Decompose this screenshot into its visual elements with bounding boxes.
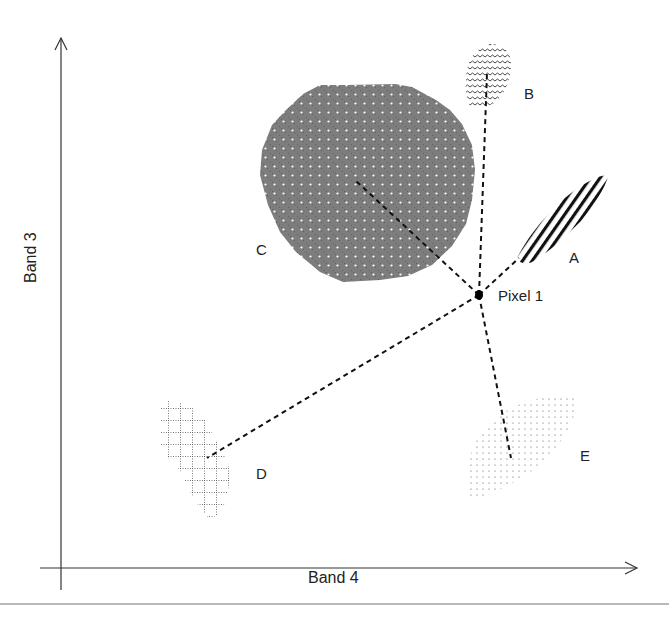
cluster-c <box>260 84 475 282</box>
x-axis-label: Band 4 <box>308 569 359 587</box>
line-to-d <box>207 295 479 458</box>
cluster-b <box>466 44 511 106</box>
cluster-e <box>467 395 578 499</box>
class-d-label: D <box>256 466 267 481</box>
class-a-label: A <box>569 250 579 265</box>
pixel-1-point <box>475 290 483 300</box>
feature-space-diagram <box>0 0 669 618</box>
y-axis-label: Band 3 <box>22 232 40 283</box>
pixel-1-label: Pixel 1 <box>498 288 543 303</box>
cluster-a <box>517 176 608 264</box>
y-axis <box>55 38 67 590</box>
class-e-label: E <box>580 448 590 463</box>
class-c-label: C <box>256 242 267 257</box>
cluster-d <box>160 399 230 518</box>
bottom-divider <box>0 603 669 605</box>
class-b-label: B <box>524 86 534 101</box>
